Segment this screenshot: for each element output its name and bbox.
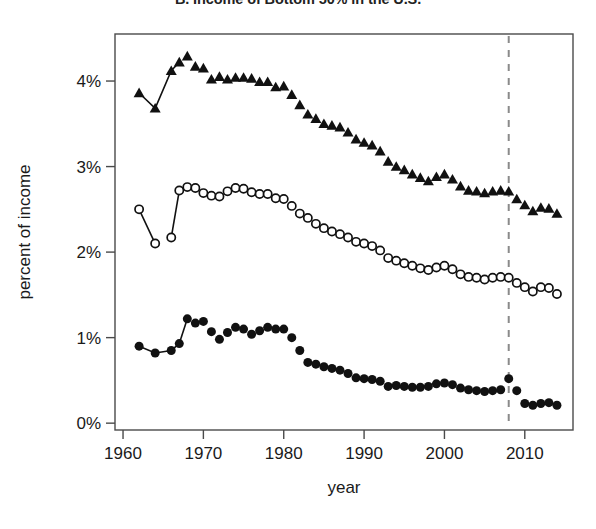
data-point-bottom-series	[319, 362, 328, 371]
data-point-top-series	[551, 208, 562, 218]
data-point-bottom-series	[496, 385, 505, 394]
data-point-bottom-series	[344, 369, 353, 378]
data-point-bottom-series	[528, 401, 537, 410]
data-point-bottom-series	[175, 339, 184, 348]
data-point-top-series	[479, 188, 490, 198]
data-point-middle-series	[513, 279, 521, 287]
data-point-middle-series	[432, 263, 440, 271]
data-point-middle-series	[167, 233, 175, 241]
data-point-top-series	[286, 89, 297, 99]
data-point-middle-series	[191, 184, 199, 192]
data-point-bottom-series	[544, 398, 553, 407]
data-point-middle-series	[264, 190, 272, 198]
data-point-top-series	[134, 88, 145, 98]
data-point-middle-series	[135, 205, 143, 213]
data-point-bottom-series	[271, 325, 280, 334]
data-point-bottom-series	[368, 375, 377, 384]
data-point-bottom-series	[552, 401, 561, 410]
data-point-top-series	[302, 109, 313, 119]
plot-area: 1960197019801990200020100%1%2%3%4%yearpe…	[0, 0, 596, 529]
data-point-middle-series	[448, 265, 456, 273]
data-point-top-series	[246, 73, 257, 83]
data-point-bottom-series	[352, 373, 361, 382]
chart-figure: B. Income of Bottom 50% in the U.S. 1960…	[0, 0, 596, 529]
data-point-top-series	[318, 118, 329, 128]
data-point-bottom-series	[520, 399, 529, 408]
data-point-middle-series	[239, 185, 247, 193]
y-tick-label: 4%	[76, 72, 101, 91]
data-point-middle-series	[296, 210, 304, 218]
data-point-middle-series	[320, 224, 328, 232]
data-point-bottom-series	[223, 328, 232, 337]
data-point-top-series	[198, 63, 209, 73]
data-point-bottom-series	[167, 346, 176, 355]
data-point-bottom-series	[400, 382, 409, 391]
data-point-middle-series	[231, 184, 239, 192]
data-point-bottom-series	[416, 383, 425, 392]
data-point-middle-series	[400, 259, 408, 267]
data-point-top-series	[503, 186, 514, 196]
data-point-bottom-series	[191, 319, 200, 328]
data-point-middle-series	[312, 220, 320, 228]
data-point-bottom-series	[135, 342, 144, 351]
data-point-middle-series	[215, 192, 223, 200]
data-point-middle-series	[352, 238, 360, 246]
data-point-middle-series	[328, 227, 336, 235]
data-point-bottom-series	[536, 399, 545, 408]
data-point-top-series	[294, 100, 305, 110]
data-point-top-series	[447, 174, 458, 184]
y-tick-label: 2%	[76, 243, 101, 262]
data-point-middle-series	[207, 192, 215, 200]
data-point-middle-series	[440, 262, 448, 270]
series-connector-middle-series	[139, 209, 155, 243]
x-tick-label: 1960	[104, 444, 142, 463]
data-point-bottom-series	[151, 349, 160, 358]
data-point-middle-series	[272, 194, 280, 202]
data-point-middle-series	[529, 287, 537, 295]
data-point-bottom-series	[392, 381, 401, 390]
y-tick-label: 1%	[76, 329, 101, 348]
data-point-top-series	[383, 156, 394, 166]
data-point-top-series	[326, 120, 337, 130]
data-point-top-series	[334, 122, 345, 132]
data-point-bottom-series	[472, 386, 481, 395]
data-point-bottom-series	[440, 378, 449, 387]
data-point-middle-series	[288, 202, 296, 210]
data-point-top-series	[471, 186, 482, 196]
data-point-middle-series	[416, 264, 424, 272]
data-point-bottom-series	[207, 327, 216, 336]
data-point-top-series	[543, 203, 554, 213]
data-point-middle-series	[280, 195, 288, 203]
data-point-bottom-series	[408, 383, 417, 392]
data-point-middle-series	[392, 257, 400, 265]
data-point-middle-series	[505, 274, 513, 282]
data-point-bottom-series	[376, 377, 385, 386]
x-axis-title: year	[327, 478, 360, 497]
data-point-bottom-series	[263, 323, 272, 332]
data-point-middle-series	[336, 230, 344, 238]
data-point-bottom-series	[239, 325, 248, 334]
data-point-middle-series	[456, 270, 464, 278]
data-point-middle-series	[199, 189, 207, 197]
data-point-bottom-series	[303, 358, 312, 367]
data-point-bottom-series	[295, 346, 304, 355]
data-point-middle-series	[344, 233, 352, 241]
data-point-bottom-series	[215, 335, 224, 344]
data-point-bottom-series	[488, 386, 497, 395]
data-point-top-series	[439, 169, 450, 179]
data-point-top-series	[190, 61, 201, 71]
data-point-middle-series	[384, 254, 392, 262]
data-point-bottom-series	[360, 374, 369, 383]
data-point-bottom-series	[384, 382, 393, 391]
data-point-middle-series	[424, 266, 432, 274]
data-point-bottom-series	[327, 364, 336, 373]
data-point-top-series	[391, 161, 402, 171]
data-point-middle-series	[489, 274, 497, 282]
y-tick-label: 3%	[76, 158, 101, 177]
data-point-middle-series	[408, 262, 416, 270]
data-point-middle-series	[376, 246, 384, 254]
data-point-middle-series	[545, 284, 553, 292]
data-point-bottom-series	[247, 330, 256, 339]
data-point-bottom-series	[287, 333, 296, 342]
data-point-bottom-series	[255, 326, 264, 335]
